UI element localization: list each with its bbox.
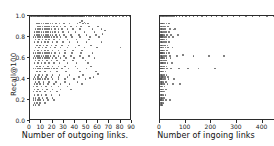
data-point <box>82 57 84 59</box>
data-point <box>36 91 38 93</box>
data-point <box>79 55 81 57</box>
data-point <box>67 86 69 88</box>
data-point <box>42 60 44 62</box>
data-point <box>45 47 47 49</box>
data-point <box>41 62 43 64</box>
data-point <box>81 20 83 22</box>
data-point <box>68 45 70 47</box>
data-point <box>273 16 274 17</box>
data-point <box>167 45 169 47</box>
data-point <box>102 33 104 35</box>
x-tick-label: 10 <box>37 123 45 130</box>
data-point <box>163 71 165 73</box>
data-point <box>64 66 66 68</box>
data-point <box>60 36 62 38</box>
data-point <box>120 47 122 49</box>
data-point <box>52 50 54 52</box>
data-point <box>50 71 52 73</box>
data-point <box>48 28 50 30</box>
data-point <box>43 66 45 68</box>
data-point <box>94 31 96 33</box>
data-point <box>48 26 50 28</box>
data-point <box>164 28 166 30</box>
data-point <box>61 28 63 30</box>
data-point <box>176 55 178 57</box>
data-point <box>84 31 86 33</box>
data-point <box>164 91 166 93</box>
data-point <box>51 52 53 54</box>
data-point <box>166 57 168 59</box>
data-point <box>73 78 75 80</box>
data-point <box>89 36 91 38</box>
data-point <box>79 28 81 30</box>
left-scatter-points <box>30 16 130 119</box>
data-point <box>38 47 40 49</box>
data-point <box>33 52 35 54</box>
data-point <box>86 41 88 43</box>
data-point <box>39 78 41 80</box>
data-point <box>216 16 218 17</box>
data-point <box>46 60 48 62</box>
data-point <box>69 74 71 76</box>
data-point <box>87 62 89 64</box>
data-point <box>67 39 69 41</box>
data-point <box>50 23 52 25</box>
left-x-axis-label: Number of outgoing links. <box>10 131 140 140</box>
data-point <box>34 89 36 91</box>
data-point <box>33 104 35 106</box>
data-point <box>47 66 49 68</box>
data-point <box>80 52 82 54</box>
data-point <box>37 94 39 96</box>
data-point <box>164 78 166 80</box>
data-point <box>60 47 62 49</box>
data-point <box>53 62 55 64</box>
y-tick-label: 0.8 <box>8 33 25 40</box>
data-point <box>227 16 229 17</box>
data-point <box>73 57 75 59</box>
data-point <box>33 86 35 88</box>
data-point <box>42 47 44 49</box>
data-point <box>165 31 167 33</box>
data-point <box>172 47 174 49</box>
x-tick-label: 60 <box>93 123 101 130</box>
data-point <box>122 16 124 17</box>
data-point <box>211 16 213 17</box>
data-point <box>36 45 38 47</box>
data-point <box>41 94 43 96</box>
data-point <box>98 36 100 38</box>
data-point <box>90 45 92 47</box>
data-point <box>164 83 166 85</box>
data-point <box>233 16 235 17</box>
data-point <box>44 41 46 43</box>
data-point <box>164 52 166 54</box>
data-point <box>97 73 99 75</box>
data-point <box>86 34 88 36</box>
x-tick-label: 20 <box>48 123 56 130</box>
data-point <box>163 66 165 68</box>
data-point <box>58 78 60 80</box>
data-point <box>44 102 46 104</box>
data-point <box>99 16 101 17</box>
right-scatter-points <box>160 16 274 119</box>
data-point <box>46 89 48 91</box>
data-point <box>78 76 80 78</box>
data-point <box>70 26 72 28</box>
data-point <box>166 52 168 54</box>
data-point <box>97 26 99 28</box>
data-point <box>60 89 62 91</box>
data-point <box>68 68 70 70</box>
right-panel: 0100200300400 Number of ingoing links <box>140 0 274 146</box>
data-point <box>165 71 167 73</box>
y-tick-label: 0.6 <box>8 54 25 61</box>
data-point <box>60 26 62 28</box>
data-point <box>239 16 241 17</box>
data-point <box>59 23 61 25</box>
data-point <box>169 99 171 101</box>
x-tick-label: 30 <box>59 123 67 130</box>
data-point <box>48 52 50 54</box>
data-point <box>214 68 216 70</box>
data-point <box>38 104 40 106</box>
data-point <box>96 47 98 49</box>
data-point <box>39 57 41 59</box>
data-point <box>221 16 223 17</box>
